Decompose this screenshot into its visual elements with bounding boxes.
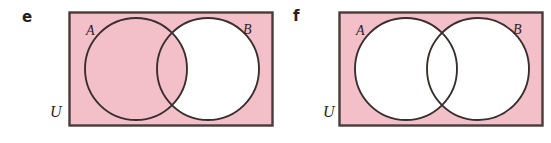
panel-e: e U A B <box>0 0 275 143</box>
panel-letter-e: e <box>22 10 32 25</box>
set-a-label-f: A <box>356 24 365 38</box>
panel-letter-f: f <box>293 9 300 24</box>
venn-diagram-figure: e U A B <box>0 0 551 143</box>
set-b-label-f: B <box>513 23 522 37</box>
set-b-label-e: B <box>243 23 252 37</box>
universe-label-f: U <box>323 104 335 120</box>
universe-label-e: U <box>50 104 62 120</box>
panel-f: f U A B <box>276 0 551 143</box>
set-a-label-e: A <box>86 24 95 38</box>
